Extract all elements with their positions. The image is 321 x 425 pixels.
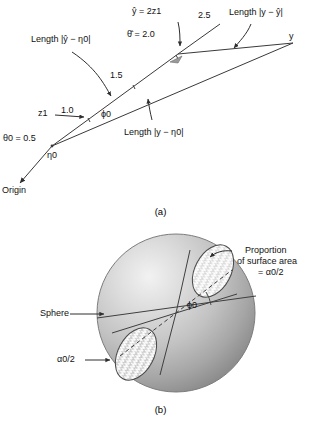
label-proportion-line3: = α0/2: [258, 267, 283, 278]
label-proportion-line2: of surface area: [237, 256, 297, 267]
label-proportion-line1: Proportion: [245, 245, 287, 256]
caption-panel-b: (b): [0, 404, 321, 415]
panel-b-svg: [0, 0, 321, 425]
figure-panel-b: [0, 0, 321, 425]
label-alpha0-half: α0/2: [57, 354, 75, 365]
label-sphere: Sphere: [40, 308, 69, 319]
label-phi0-panel-b: ϕ0: [187, 300, 197, 311]
